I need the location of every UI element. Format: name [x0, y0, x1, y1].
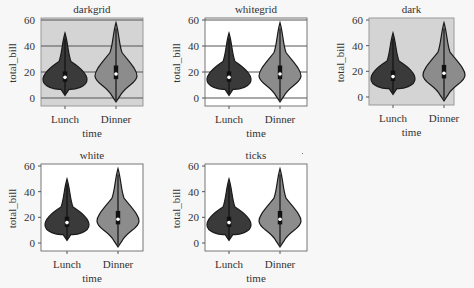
y-axis-label: total_bill — [6, 189, 18, 229]
chart-title: ticks — [246, 149, 267, 161]
panel-white: 0204060LunchDinnertimetotal_billwhite — [0, 143, 160, 288]
x-tick-label: Lunch — [215, 258, 244, 270]
y-tick-label: 20 — [188, 66, 200, 78]
y-tick-label: 20 — [352, 65, 364, 77]
x-tick-label: Lunch — [53, 258, 82, 270]
x-tick-label: Lunch — [379, 112, 408, 124]
x-axis-label: time — [402, 126, 422, 138]
panel-whitegrid: 0204060LunchDinnertimetotal_billwhitegri… — [164, 0, 324, 145]
y-tick-label: 60 — [352, 14, 364, 26]
median-dot — [65, 221, 69, 225]
median-dot — [227, 76, 231, 80]
y-tick-label: 0 — [194, 237, 200, 249]
median-dot — [63, 76, 67, 80]
panel-darkgrid: 0204060LunchDinnertimetotal_billdarkgrid — [0, 0, 160, 145]
median-dot — [278, 72, 282, 76]
y-tick-label: 0 — [30, 92, 36, 104]
chart-ticks: 0204060LunchDinnertimetotal_billticks — [164, 143, 324, 288]
x-tick-label: Dinner — [429, 112, 460, 124]
x-tick-label: Dinner — [265, 258, 296, 270]
median-dot — [116, 217, 120, 221]
y-tick-label: 0 — [194, 92, 200, 104]
y-tick-label: 20 — [24, 211, 36, 223]
chart-whitegrid: 0204060LunchDinnertimetotal_billwhitegri… — [164, 0, 324, 145]
y-axis-label: total_bill — [170, 43, 182, 83]
x-tick-label: Lunch — [215, 113, 244, 125]
y-tick-label: 60 — [188, 14, 200, 26]
y-tick-label: 40 — [188, 40, 200, 52]
median-dot — [278, 217, 282, 221]
y-tick-label: 40 — [188, 186, 200, 198]
chart-dark: 0204060LunchDinnertimetotal_billdark — [328, 0, 474, 145]
y-tick-label: 60 — [24, 14, 36, 26]
y-tick-label: 40 — [352, 40, 364, 52]
chart-title: white — [80, 149, 105, 161]
y-axis-label: total_bill — [6, 43, 18, 83]
panel-ticks: 0204060LunchDinnertimetotal_billticks — [164, 143, 324, 288]
chart-title: dark — [402, 3, 422, 15]
y-tick-label: 0 — [30, 237, 36, 249]
y-tick-label: 0 — [358, 91, 364, 103]
y-axis-label: total_bill — [334, 43, 346, 83]
x-axis-label: time — [82, 127, 102, 139]
x-tick-label: Dinner — [265, 113, 296, 125]
y-tick-label: 60 — [188, 160, 200, 172]
x-axis-label: time — [82, 272, 102, 284]
median-dot — [114, 72, 118, 76]
chart-title: darkgrid — [73, 3, 111, 15]
x-tick-label: Dinner — [101, 113, 132, 125]
panel-dark: 0204060LunchDinnertimetotal_billdark — [328, 0, 474, 145]
y-tick-label: 20 — [24, 66, 36, 78]
y-tick-label: 20 — [188, 211, 200, 223]
chart-title: whitegrid — [235, 3, 278, 15]
chart-white: 0204060LunchDinnertimetotal_billwhite — [0, 143, 160, 288]
y-tick-label: 40 — [24, 186, 36, 198]
x-tick-label: Dinner — [103, 258, 134, 270]
x-axis-label: time — [246, 272, 266, 284]
y-tick-label: 40 — [24, 40, 36, 52]
y-axis-label: total_bill — [170, 189, 182, 229]
median-dot — [442, 71, 446, 75]
median-dot — [227, 221, 231, 225]
stray-dot — [302, 153, 303, 154]
y-tick-label: 60 — [24, 160, 36, 172]
chart-darkgrid: 0204060LunchDinnertimetotal_billdarkgrid — [0, 0, 160, 145]
x-tick-label: Lunch — [51, 113, 80, 125]
median-dot — [391, 75, 395, 79]
x-axis-label: time — [246, 127, 266, 139]
